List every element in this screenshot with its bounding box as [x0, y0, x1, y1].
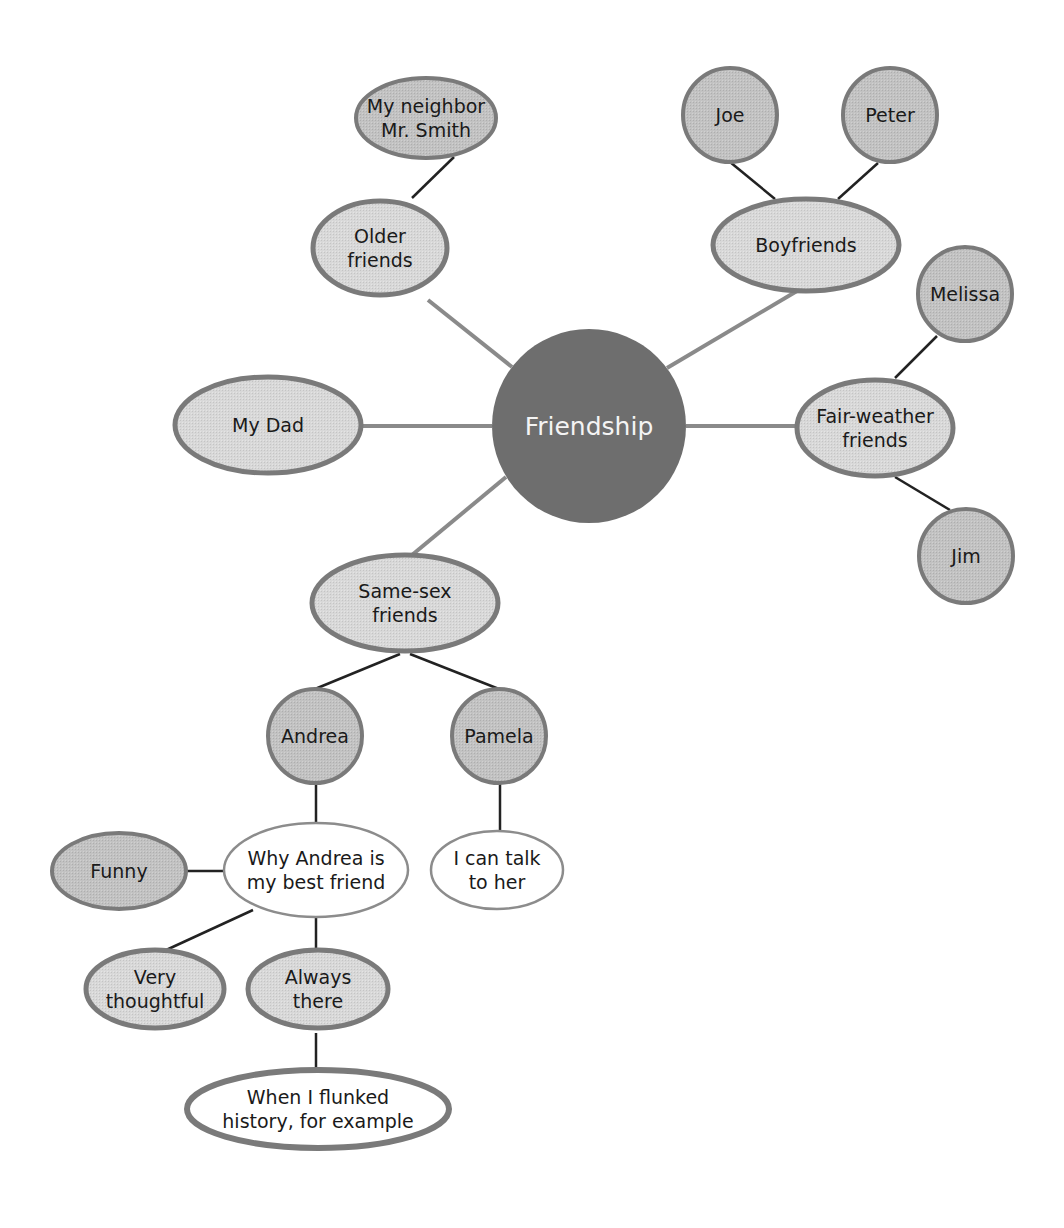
edge-friendship-to-older-friends — [428, 300, 512, 367]
node-my-neighbor-mr-smith[interactable]: My neighborMr. Smith — [356, 78, 496, 158]
node-when-i-flunked[interactable]: When I flunkedhistory, for example — [187, 1070, 449, 1148]
node-label: Funny — [90, 860, 147, 882]
node-always-there[interactable]: Alwaysthere — [248, 950, 388, 1028]
node-label: Andrea — [281, 725, 349, 747]
node-shape — [797, 380, 953, 476]
edge-melissa-to-fair-weather-friends — [895, 336, 937, 378]
node-label: Joe — [715, 104, 745, 126]
node-label: to her — [469, 871, 526, 893]
nodes: OlderfriendsMy neighborMr. SmithBoyfrien… — [52, 68, 1013, 1148]
node-boyfriends[interactable]: Boyfriends — [713, 199, 899, 291]
node-label: Always — [285, 966, 352, 988]
node-label: thoughtful — [106, 990, 205, 1012]
node-pamela[interactable]: Pamela — [452, 689, 546, 783]
edge-fair-weather-friends-to-jim — [895, 477, 950, 510]
center-label: Friendship — [525, 412, 654, 441]
node-my-dad[interactable]: My Dad — [175, 377, 361, 473]
node-label: Fair-weather — [816, 405, 934, 427]
node-label: Pamela — [464, 725, 533, 747]
node-label: Jim — [950, 545, 980, 567]
node-label: My neighbor — [367, 95, 485, 117]
node-shape — [356, 78, 496, 158]
node-shape — [86, 950, 224, 1028]
edge-joe-to-boyfriends — [730, 162, 775, 199]
node-label: Same-sex — [358, 580, 451, 602]
edge-why-andrea-to-very-thoughtful — [164, 910, 253, 951]
node-label: When I flunked — [247, 1086, 389, 1108]
node-peter[interactable]: Peter — [843, 68, 937, 162]
connector-lines — [164, 157, 950, 1070]
edge-friendship-to-boyfriends — [667, 291, 797, 368]
node-label: I can talk — [453, 847, 540, 869]
node-fair-weather-friends[interactable]: Fair-weatherfriends — [797, 380, 953, 476]
node-shape — [224, 823, 408, 917]
edge-same-sex-friends-to-andrea — [315, 654, 400, 689]
node-label: friends — [842, 429, 907, 451]
center-node-friendship[interactable]: Friendship — [492, 329, 686, 523]
node-i-can-talk-to-her[interactable]: I can talkto her — [431, 831, 563, 909]
node-very-thoughtful[interactable]: Verythoughtful — [86, 950, 224, 1028]
edge-friendship-to-same-sex-friends — [412, 477, 506, 555]
node-older-friends[interactable]: Olderfriends — [313, 201, 447, 295]
node-label: there — [293, 990, 343, 1012]
node-shape — [187, 1070, 449, 1148]
node-shape — [313, 201, 447, 295]
node-funny[interactable]: Funny — [52, 833, 186, 909]
node-melissa[interactable]: Melissa — [918, 247, 1012, 341]
node-andrea[interactable]: Andrea — [268, 689, 362, 783]
node-jim[interactable]: Jim — [919, 509, 1013, 603]
edge-same-sex-friends-to-pamela — [410, 654, 499, 689]
node-same-sex-friends[interactable]: Same-sexfriends — [312, 555, 498, 651]
node-label: Melissa — [930, 283, 1000, 305]
node-label: Older — [354, 225, 406, 247]
node-label: Why Andrea is — [247, 847, 384, 869]
node-label: My Dad — [232, 414, 304, 436]
node-label: history, for example — [222, 1110, 413, 1132]
node-label: friends — [372, 604, 437, 626]
node-label: friends — [347, 249, 412, 271]
node-why-andrea[interactable]: Why Andrea ismy best friend — [224, 823, 408, 917]
node-label: Boyfriends — [755, 234, 856, 256]
node-label: Very — [134, 966, 176, 988]
node-label: Mr. Smith — [381, 119, 471, 141]
node-shape — [248, 950, 388, 1028]
node-joe[interactable]: Joe — [683, 68, 777, 162]
edge-peter-to-boyfriends — [838, 163, 878, 199]
edge-my-neighbor-mr-smith-to-older-friends — [412, 157, 454, 198]
friendship-mind-map: OlderfriendsMy neighborMr. SmithBoyfrien… — [0, 0, 1064, 1228]
node-label: Peter — [865, 104, 915, 126]
node-label: my best friend — [247, 871, 386, 893]
node-shape — [312, 555, 498, 651]
node-shape — [431, 831, 563, 909]
